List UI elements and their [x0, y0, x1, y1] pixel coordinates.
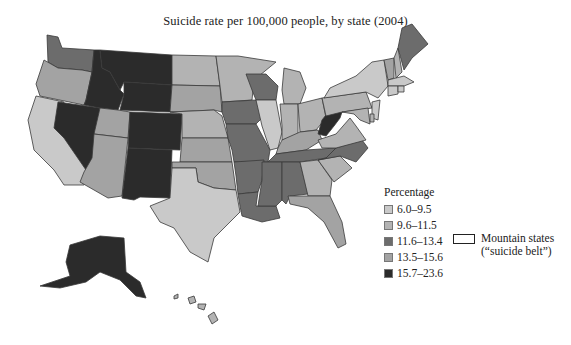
state-NY: [324, 60, 388, 98]
legend-swatch-icon: [384, 221, 393, 230]
mountain-states-label: Mountain states: [481, 232, 554, 245]
legend-swatch-icon: [384, 253, 393, 262]
legend-label: 6.0–9.5: [397, 203, 432, 215]
state-IA: [222, 100, 262, 124]
legend-item: 11.6–13.4: [384, 233, 443, 249]
state-SD: [170, 85, 222, 112]
state-WY: [120, 82, 172, 112]
legend-item: 13.5–15.6: [384, 249, 443, 265]
state-ND: [172, 55, 220, 86]
legend: Percentage 6.0–9.5 9.6–11.5 11.6–13.4 13…: [384, 186, 443, 281]
state-AK: [40, 236, 146, 298]
legend-label: 15.7–23.6: [397, 267, 443, 279]
state-HI: [208, 312, 218, 324]
state-DE: [370, 114, 374, 122]
us-choropleth-map: [0, 0, 571, 345]
state-RI: [398, 86, 404, 92]
outline-box-icon: [453, 234, 475, 244]
mountain-states-key: Mountain states (“suicide belt”): [453, 232, 554, 258]
state-MS: [258, 162, 282, 206]
state-HI-small3: [174, 294, 178, 299]
state-HI-small2: [198, 304, 206, 310]
state-AR: [234, 160, 264, 194]
state-UT: [94, 108, 130, 138]
legend-item: 9.6–11.5: [384, 217, 443, 233]
legend-item: 15.7–23.6: [384, 265, 443, 281]
legend-swatch-icon: [384, 269, 393, 278]
legend-heading: Percentage: [384, 186, 443, 198]
state-CT: [388, 86, 398, 96]
legend-item: 6.0–9.5: [384, 201, 443, 217]
suicide-belt-label: (“suicide belt”): [481, 245, 554, 258]
legend-label: 11.6–13.4: [397, 235, 443, 247]
legend-swatch-icon: [384, 205, 393, 214]
state-NM: [122, 148, 172, 200]
state-HI-small1: [188, 296, 196, 304]
legend-label: 13.5–15.6: [397, 251, 443, 263]
legend-label: 9.6–11.5: [397, 219, 437, 231]
state-KS: [180, 138, 232, 162]
legend-swatch-icon: [384, 237, 393, 246]
state-FL: [288, 196, 346, 248]
state-MI: [282, 68, 306, 104]
state-ME: [398, 24, 428, 70]
state-CO: [128, 112, 182, 150]
